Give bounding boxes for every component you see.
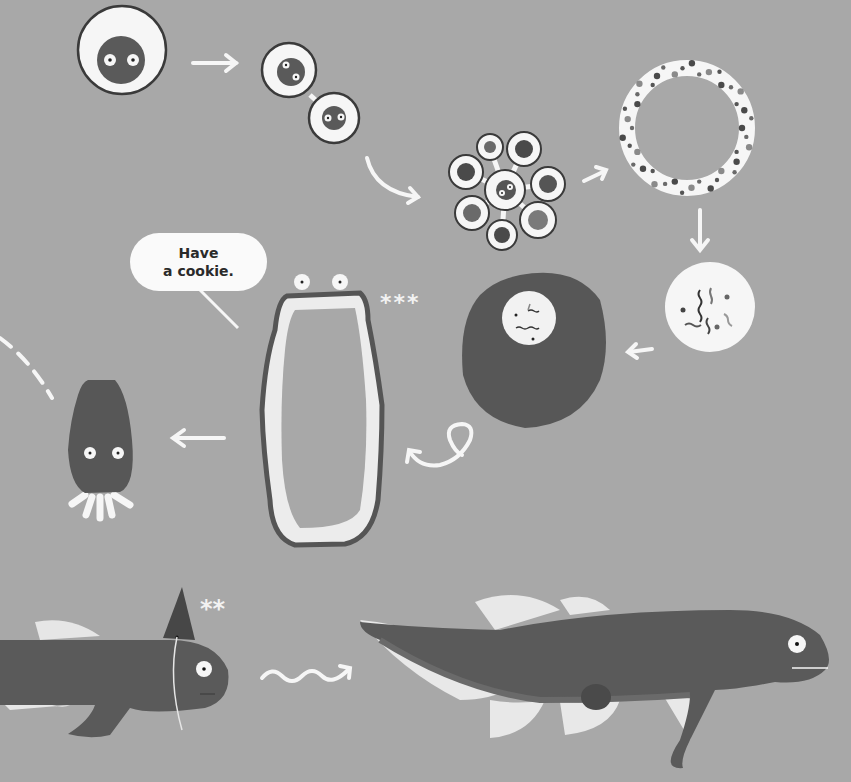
hollow-ball-icon [620,60,754,195]
gene-cell-icon [665,262,755,352]
cell-cluster-icon [449,132,565,250]
arrow-left-large-icon [173,430,224,446]
arrow-down-icon [692,210,708,250]
illustration-canvas: *** ** [0,0,851,782]
wavy-arrow-icon [262,666,350,681]
bubble-tail [200,290,238,328]
early-fish-icon [0,587,229,737]
two-cells-icon [262,43,359,143]
lobe-fish-icon [360,595,829,768]
arrow-right-icon [193,55,236,71]
fish-stars-text: ** [200,595,226,623]
curved-arrow-icon [367,158,418,203]
sponge-icon [262,274,382,545]
dashed-trail [0,338,52,398]
jellyfish-icon [68,380,133,518]
loop-arrow-icon [407,424,471,465]
speech-bubble-line2: a cookie. [163,262,234,280]
arrow-diagonal-icon [584,167,606,181]
single-cell-icon [78,6,166,94]
arrow-left-icon [628,344,652,358]
sponge-stars-text: *** [380,290,421,315]
speech-bubble: Have a cookie. [130,233,267,291]
dark-blob-icon [462,273,606,428]
speech-bubble-line1: Have [179,244,219,262]
